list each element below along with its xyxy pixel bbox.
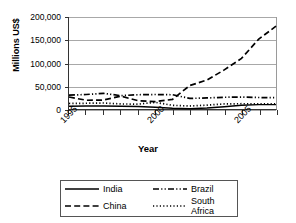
legend-swatch-dashed	[64, 201, 100, 211]
legend-item-china[interactable]: China	[61, 196, 149, 216]
data-series-lines	[69, 17, 276, 109]
x-tick-mark	[190, 110, 191, 115]
x-tick-label: 1995	[58, 104, 79, 125]
series-line-china	[69, 26, 276, 101]
legend-grid: IndiaBrazilChinaSouth Africa	[61, 181, 237, 216]
legend-swatch-solid	[64, 184, 100, 194]
legend-item-india[interactable]: India	[61, 181, 149, 196]
x-tick-mark	[207, 110, 208, 115]
legend-label: Brazil	[191, 184, 214, 194]
y-tick-label: 200,000	[0, 12, 61, 22]
x-tick-mark	[225, 110, 226, 115]
legend-item-brazil[interactable]: Brazil	[149, 181, 237, 196]
legend-label: China	[103, 201, 127, 211]
series-line-brazil	[69, 93, 276, 98]
legend-swatch-dotted	[152, 201, 188, 211]
chart-figure: Millions US$ 200,000150,000100,00050,000…	[0, 0, 296, 223]
y-tick-label: 100,000	[0, 59, 61, 69]
chart-legend: IndiaBrazilChinaSouth Africa	[60, 180, 238, 217]
plot-canvas	[68, 17, 277, 110]
x-tick-mark	[260, 110, 261, 115]
chart-plot-region: Millions US$ 200,000150,000100,00050,000…	[0, 0, 296, 155]
x-axis-title: Year	[0, 143, 296, 154]
x-tick-mark	[85, 110, 86, 115]
legend-swatch-dashdotdot	[152, 184, 188, 194]
x-tick-mark	[138, 110, 139, 115]
y-tick-label: 0	[0, 105, 61, 115]
x-tick-mark	[120, 110, 121, 115]
y-tick-label: 50,000	[0, 82, 61, 92]
legend-label: South Africa	[191, 196, 237, 216]
legend-label: India	[103, 184, 123, 194]
x-tick-mark	[277, 110, 278, 115]
x-tick-mark	[103, 110, 104, 115]
y-tick-label: 150,000	[0, 35, 61, 45]
x-tick-mark	[173, 110, 174, 115]
legend-item-south-africa[interactable]: South Africa	[149, 196, 237, 216]
